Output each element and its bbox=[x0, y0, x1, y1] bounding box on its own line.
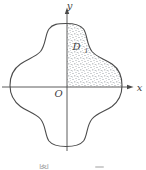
figure-canvas: y x O D 1 bbox=[0, 0, 146, 170]
shaded-region-d1 bbox=[67, 24, 122, 87]
x-axis-arrow-icon bbox=[127, 85, 134, 89]
caption-partial: 图 bbox=[39, 164, 73, 169]
caption-fragment bbox=[95, 166, 104, 168]
origin-label: O bbox=[54, 88, 62, 99]
region-label-subscript: 1 bbox=[84, 47, 88, 55]
y-axis-label: y bbox=[66, 0, 73, 11]
region-label-letter: D bbox=[72, 41, 81, 52]
x-axis-label: x bbox=[137, 82, 143, 93]
